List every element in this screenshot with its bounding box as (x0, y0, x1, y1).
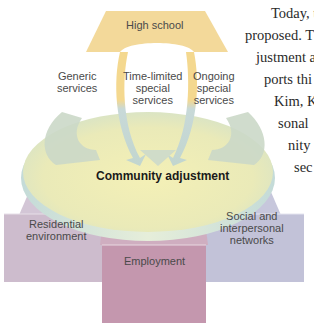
ongoing-services-label: Ongoing special services (193, 70, 235, 106)
body-text-line-7: nity (288, 134, 311, 156)
body-text-line-4: ports thi (264, 68, 312, 90)
employment-label: Employment (124, 255, 185, 267)
social-networks-label: Social and interpersonal networks (220, 210, 284, 246)
body-text-line-2: proposed. T (245, 24, 314, 46)
body-text-line-5: Kim, K (274, 90, 314, 112)
generic-services-label: Generic services (57, 70, 97, 94)
diagram-stage: High school Generic services Time-limite… (0, 0, 314, 329)
time-limited-services-label: Time-limited special services (123, 70, 183, 106)
body-text-line-3: justment a (256, 46, 314, 68)
body-text-line-1: Today, t (271, 2, 314, 24)
high-school-label: High school (126, 19, 183, 31)
residential-environment-label: Residential environment (26, 218, 87, 242)
high-school-box (86, 11, 228, 52)
body-text-line-8: sec (294, 156, 313, 178)
community-adjustment-label: Community adjustment (96, 170, 229, 182)
body-text-line-6: sonal (278, 112, 309, 134)
